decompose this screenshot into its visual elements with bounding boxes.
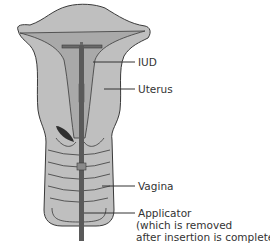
label-iud: IUD (138, 56, 157, 68)
applicator-tube (79, 45, 84, 241)
iud-insertion-diagram: IUD Uterus Vagina Applicator (which is r… (0, 0, 270, 246)
label-vagina: Vagina (138, 180, 173, 192)
applicator-flange (77, 163, 86, 170)
label-applicator-note-2: after insertion is completed) (136, 231, 270, 243)
label-applicator: Applicator (138, 207, 192, 219)
label-uterus: Uterus (138, 83, 173, 95)
label-applicator-note-1: (which is removed (136, 219, 232, 231)
